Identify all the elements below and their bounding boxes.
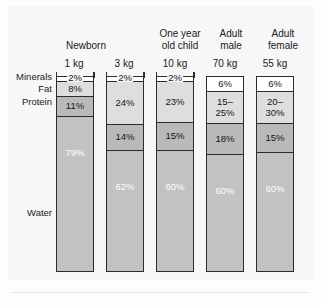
segment-label-fat: 18% (215, 134, 234, 145)
segment-label-minerals: 2% (67, 73, 83, 83)
leader-tick-left (156, 72, 158, 78)
segment-label-protein: 23% (165, 97, 184, 108)
bar-column-3kg: 2% 24% 14% 62% (106, 76, 144, 272)
figure-baseline-rule (12, 292, 309, 293)
bar-column-10kg: 2% 23% 15% 60% (156, 76, 194, 272)
segment-label-water: 60% (265, 184, 284, 194)
segment-water-70kg: 60% (207, 155, 243, 271)
column-weight-70kg: 70 kg (204, 58, 246, 69)
column-weight-1kg: 1 kg (54, 58, 94, 69)
row-label-fat: Fat (0, 84, 52, 94)
segment-label-fat: 15% (165, 131, 184, 142)
segment-label-fat: 8% (68, 84, 82, 95)
segment-label-protein: 11% (66, 101, 84, 112)
segment-label-minerals: 6% (218, 79, 232, 90)
column-header-newborn: Newborn (36, 40, 136, 52)
segment-label-water: 62% (115, 182, 134, 192)
segment-protein-10kg: 23% (157, 82, 193, 123)
row-label-protein: Protein (0, 97, 52, 107)
column-weight-3kg: 3 kg (104, 58, 144, 69)
segment-label-protein: 15– 25% (215, 97, 234, 118)
segment-label-fat: 15% (265, 133, 284, 144)
column-header-adult-male: Adult male (205, 28, 257, 51)
bar-column-70kg: 6% 15– 25% 18% 60% (206, 76, 244, 272)
segment-label-fat: 14% (115, 132, 134, 143)
column-weight-10kg: 10 kg (154, 58, 196, 69)
leader-tick-left (56, 72, 58, 78)
column-header-adult-female: Adult female (255, 28, 311, 51)
row-label-water: Water (0, 208, 52, 218)
segment-water-3kg: 62% (107, 151, 143, 271)
segment-label-minerals: 2% (167, 73, 183, 83)
segment-water-1kg: 79% (57, 117, 93, 271)
segment-label-water: 60% (165, 182, 184, 192)
segment-label-water: 79% (65, 148, 84, 158)
segment-label-protein: 24% (115, 98, 134, 109)
bar-column-1kg: 2% 8% 11% 79% (56, 76, 94, 272)
column-header-one-year-old-child: One year old child (152, 28, 208, 51)
leader-tick-right (93, 72, 95, 78)
segment-label-protein: 20– 30% (265, 97, 284, 118)
row-label-minerals: Minerals (0, 72, 52, 82)
segment-minerals-70kg: 6% (207, 77, 243, 92)
segment-water-10kg: 60% (157, 151, 193, 271)
figure-root: Newborn One year old child Adult male Ad… (0, 0, 321, 305)
segment-protein-1kg: 11% (57, 97, 93, 117)
leader-tick-left (106, 72, 108, 78)
segment-label-minerals: 6% (268, 79, 282, 90)
segment-label-water: 60% (215, 186, 234, 196)
leader-tick-right (143, 72, 145, 78)
segment-fat-10kg: 15% (157, 123, 193, 151)
segment-protein-55kg: 20– 30% (257, 92, 293, 124)
leader-tick-right (193, 72, 195, 78)
segment-protein-3kg: 24% (107, 82, 143, 125)
column-weight-55kg: 55 kg (254, 58, 296, 69)
segment-water-55kg: 60% (257, 153, 293, 271)
segment-fat-3kg: 14% (107, 125, 143, 151)
segment-minerals-55kg: 6% (257, 77, 293, 92)
segment-fat-1kg: 8% (57, 82, 93, 97)
segment-protein-70kg: 15– 25% (207, 92, 243, 124)
segment-fat-55kg: 15% (257, 124, 293, 153)
bar-column-55kg: 6% 20– 30% 15% 60% (256, 76, 294, 272)
segment-fat-70kg: 18% (207, 124, 243, 155)
segment-label-minerals: 2% (117, 73, 133, 83)
